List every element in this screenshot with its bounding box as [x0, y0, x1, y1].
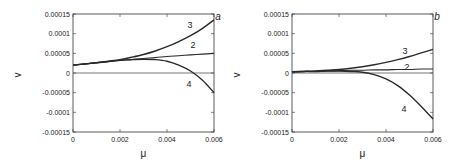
x-tick-label: 0	[71, 136, 75, 143]
curve-label-4: 4	[401, 104, 406, 114]
x-tick-label: 0.002	[111, 136, 129, 143]
x-tick-label: 0.006	[424, 136, 442, 143]
panel-label: a	[215, 11, 221, 22]
y-tick-label: -0.00015	[42, 129, 70, 136]
y-tick-label: 0	[66, 70, 70, 77]
x-tick-label: 0	[290, 136, 294, 143]
y-tick-label: -0.00005	[261, 89, 289, 96]
curve-4	[73, 59, 214, 92]
panel-label: b	[434, 11, 440, 22]
curve-label-3: 3	[402, 46, 407, 56]
y-tick-label: 0.00005	[45, 50, 70, 57]
x-tick-label: 0.006	[205, 136, 223, 143]
x-axis-label: μ	[141, 148, 147, 159]
x-axis-label: μ	[360, 148, 366, 159]
panel-a: 0.000150.00010.000050-0.00005-0.0001-0.0…	[12, 11, 223, 160]
y-tick-label: 0	[285, 70, 289, 77]
y-tick-label: 0.0001	[268, 30, 290, 37]
x-tick-label: 0.002	[330, 136, 348, 143]
figure: 0.000150.00010.000050-0.00005-0.0001-0.0…	[0, 0, 459, 166]
x-tick-label: 0.004	[158, 136, 176, 143]
curve-label-3: 3	[187, 20, 192, 30]
y-tick-label: -0.0001	[46, 109, 70, 116]
curve-label-2: 2	[190, 40, 195, 50]
curve-4	[292, 71, 433, 119]
y-tick-label: 0.0001	[49, 30, 71, 37]
y-tick-label: -0.00005	[42, 89, 70, 96]
y-tick-label: 0.00015	[264, 11, 289, 18]
y-tick-label: -0.0001	[265, 109, 289, 116]
y-tick-label: 0.00015	[45, 11, 70, 18]
curve-label-4: 4	[186, 79, 191, 89]
curve-label-2: 2	[404, 62, 409, 72]
curve-3	[292, 49, 433, 71]
panel-b: 0.000150.00010.000050-0.00005-0.0001-0.0…	[231, 11, 442, 160]
x-tick-label: 0.004	[377, 136, 395, 143]
y-tick-label: 0.00005	[264, 50, 289, 57]
y-tick-label: -0.00015	[261, 129, 289, 136]
y-axis-label: v	[12, 73, 23, 78]
y-axis-label: v	[231, 73, 242, 78]
